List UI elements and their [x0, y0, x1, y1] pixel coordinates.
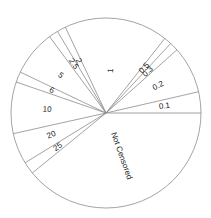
slice-label: 0.1 [158, 101, 171, 111]
pie-chart: 0.10.20.30.5122.556102025Not Censored [0, 0, 211, 218]
slice-label: 10 [43, 105, 53, 115]
pie-slices [11, 18, 201, 208]
